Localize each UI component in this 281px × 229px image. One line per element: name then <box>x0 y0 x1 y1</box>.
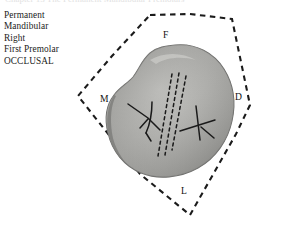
orientation-label-lingual: L <box>181 186 187 196</box>
tooth-occlusal-figure: Chapter 13 The Permanent Mandibular Prem… <box>0 0 281 229</box>
tooth-body <box>106 45 234 177</box>
tooth-rim-shading <box>106 45 234 177</box>
orientation-label-facial: F <box>163 30 168 40</box>
orientation-label-distal: D <box>235 92 242 102</box>
tooth-illustration <box>0 0 281 229</box>
orientation-label-mesial: M <box>100 94 109 104</box>
